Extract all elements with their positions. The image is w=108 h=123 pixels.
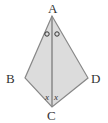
vertex-label-a: A [48,1,58,16]
vertex-label-c: C [47,108,56,123]
angle-mark-c-left: x [44,92,49,102]
vertex-label-b: B [6,71,15,86]
vertex-label-d: D [91,71,100,86]
angle-mark-c-right: x [53,92,58,102]
kite-diagram: x x A B D C [0,0,108,123]
